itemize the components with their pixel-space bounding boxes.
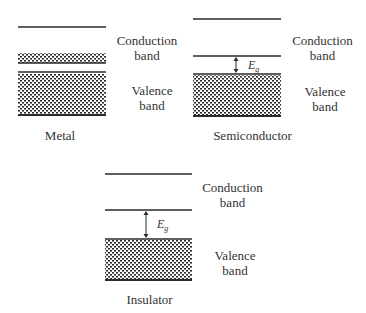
metal-conduction-label-line1: Conduction bbox=[112, 33, 182, 48]
insulator-caption: Insulator bbox=[112, 292, 187, 307]
semiconductor-valence-band-label: Valence band bbox=[290, 84, 360, 114]
metal-conduction-filled-region bbox=[18, 53, 106, 63]
metal-valence-band-label: Valence band bbox=[117, 83, 187, 113]
semiconductor-valence-filled-region bbox=[193, 75, 281, 116]
metal-caption: Metal bbox=[30, 128, 90, 143]
insulator-panel bbox=[105, 174, 192, 280]
semiconductor-valence-label-line1: Valence bbox=[290, 84, 360, 99]
semiconductor-gap-arrow-icon bbox=[234, 57, 239, 73]
metal-valence-label-line1: Valence bbox=[117, 83, 187, 98]
semiconductor-energy-gap-label: Eg bbox=[248, 58, 259, 74]
insulator-valence-label-line1: Valence bbox=[200, 248, 270, 263]
insulator-energy-gap-label: Eg bbox=[157, 217, 168, 233]
semiconductor-panel bbox=[193, 19, 281, 116]
insulator-conduction-band-label: Conduction band bbox=[195, 180, 270, 210]
semiconductor-eg-subscript: g bbox=[255, 65, 259, 74]
semiconductor-conduction-label-line2: band bbox=[285, 48, 360, 63]
insulator-gap-arrow-icon bbox=[144, 211, 149, 238]
metal-valence-filled-region bbox=[18, 74, 106, 115]
metal-valence-label-line2: band bbox=[117, 98, 187, 113]
insulator-valence-band-label: Valence band bbox=[200, 248, 270, 278]
insulator-conduction-label-line2: band bbox=[195, 195, 270, 210]
metal-conduction-band-label: Conduction band bbox=[112, 33, 182, 63]
semiconductor-conduction-band-label: Conduction band bbox=[285, 33, 360, 63]
semiconductor-valence-label-line2: band bbox=[290, 99, 360, 114]
insulator-eg-subscript: g bbox=[164, 224, 168, 233]
metal-conduction-label-line2: band bbox=[112, 48, 182, 63]
insulator-valence-filled-region bbox=[105, 240, 192, 280]
semiconductor-conduction-label-line1: Conduction bbox=[285, 33, 360, 48]
semiconductor-caption: Semiconductor bbox=[195, 128, 310, 143]
insulator-conduction-label-line1: Conduction bbox=[195, 180, 270, 195]
insulator-valence-label-line2: band bbox=[200, 263, 270, 278]
metal-panel bbox=[18, 27, 106, 115]
